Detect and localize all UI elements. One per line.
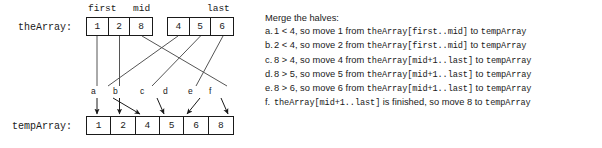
step-bullet: e.: [265, 82, 273, 95]
merge-sort-diagram: first mid last theArray: 1 2 8 4 5 6: [0, 0, 602, 148]
explanation-step: f.theArray[mid+1..last] is finished, so …: [265, 96, 601, 110]
step-text-pre: 8 > 5, so move 5 from: [274, 69, 367, 79]
move-label-b: b: [113, 86, 118, 96]
move-label-d: d: [163, 86, 168, 96]
step-code-range: theArray[first..mid]: [367, 27, 468, 37]
step-text-pre: 8 > 4, so move 4 from: [274, 55, 367, 65]
move-label-c: c: [140, 86, 144, 96]
step-code-target: tempArray: [486, 56, 532, 66]
step-code-target: tempArray: [485, 98, 531, 108]
target-cell: 1: [87, 117, 111, 134]
step-text-mid: to: [468, 26, 481, 36]
step-text-pre: 8 > 6, so move 6 from: [274, 83, 367, 93]
target-cell: 2: [111, 117, 135, 134]
step-code-target: tempArray: [486, 70, 532, 80]
move-label-a: a: [91, 86, 96, 96]
step-bullet: a.: [265, 25, 273, 38]
target-array: 1 2 4 5 6 8: [86, 116, 234, 135]
step-text-mid: to: [473, 83, 486, 93]
explanation-step: a.1 < 4, so move 1 from theArray[first..…: [265, 25, 601, 39]
explanation-heading: Merge the halves:: [265, 12, 601, 25]
target-cell: 5: [160, 117, 184, 134]
step-bullet: c.: [265, 54, 272, 67]
step-code-target: tempArray: [481, 41, 527, 51]
step-text-mid: to: [473, 55, 486, 65]
target-cell: 4: [136, 117, 160, 134]
move-label-e: e: [188, 86, 193, 96]
explanation-block: Merge the halves: a.1 < 4, so move 1 fro…: [265, 12, 601, 110]
step-text-mid: to: [473, 69, 486, 79]
target-array-label: tempArray:: [12, 121, 72, 132]
step-text-pre: 2 < 4, so move 2 from: [274, 40, 367, 50]
step-code-target: tempArray: [481, 27, 527, 37]
step-code-range: theArray[first..mid]: [367, 41, 468, 51]
step-code-range: theArray[mid+1..last]: [367, 70, 473, 80]
target-cell: 8: [209, 117, 233, 134]
step-code-range: theArray[mid+1..last]: [367, 84, 473, 94]
step-bullet: d.: [265, 68, 273, 81]
explanation-step: e.8 > 6, so move 6 from theArray[mid+1..…: [265, 82, 601, 96]
step-text-mid: is finished, so move 8 to: [380, 97, 485, 107]
step-code-range: theArray[mid+1..last]: [367, 56, 473, 66]
explanation-step: b.2 < 4, so move 2 from theArray[first..…: [265, 39, 601, 53]
step-text-mid: to: [468, 40, 481, 50]
step-code-target: tempArray: [486, 84, 532, 94]
step-bullet: f.: [265, 96, 270, 109]
explanation-step: d.8 > 5, so move 5 from theArray[mid+1..…: [265, 68, 601, 82]
explanation-step: c.8 > 4, so move 4 from theArray[mid+1..…: [265, 54, 601, 68]
step-bullet: b.: [265, 39, 273, 52]
step-code-range: theArray[mid+1..last]: [274, 98, 380, 108]
target-cell: 6: [184, 117, 208, 134]
step-text-pre: 1 < 4, so move 1 from: [274, 26, 367, 36]
move-label-f: f: [209, 86, 211, 96]
